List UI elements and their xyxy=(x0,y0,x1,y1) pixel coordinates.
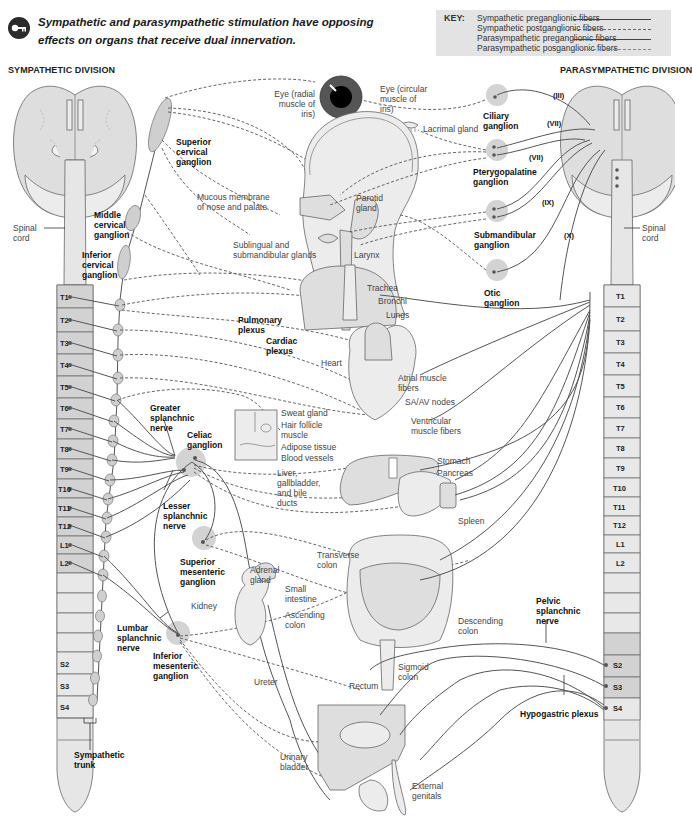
lesser-splanchnic-nerve-label: Lesser splanchnic nerve xyxy=(163,501,208,531)
trachea-label: Trachea xyxy=(367,283,398,293)
left-segment-T10: T10 xyxy=(58,485,71,494)
pelvic-splanchnic-nerve-label: Pelvic splanchnic nerve xyxy=(536,596,586,626)
lungs-label: Lungs xyxy=(386,310,409,320)
right-segment-S3: S3 xyxy=(613,683,622,692)
lumbar-splanchnic-nerve-label: Lumbar splanchnic nerve xyxy=(117,623,162,653)
ciliary-ganglion-label: Ciliary ganglion xyxy=(483,111,528,131)
right-spinal-cord-label: Spinal cord xyxy=(642,223,672,243)
rectum-label: Rectum xyxy=(349,681,378,691)
sweat-gland-label: Sweat gland xyxy=(281,408,328,418)
right-segment-T9: T9 xyxy=(616,464,625,473)
legend-key: KEY: Sympathetic preganglionic fibers Sy… xyxy=(436,10,671,56)
larynx-label: Larynx xyxy=(354,250,380,260)
cranial-nerve-X-label: (X) xyxy=(564,231,574,241)
cranial-nerve-III-label: (III) xyxy=(553,91,564,101)
key-icon xyxy=(8,17,30,39)
left-segment-T12: T12 xyxy=(58,522,71,531)
right-segment-T6: T6 xyxy=(616,403,625,412)
eye-circular-label: Eye (circular muscle of iris) xyxy=(380,84,430,114)
eye-radial-label: Eye (radial muscle of iris) xyxy=(265,89,315,119)
key-statement: Sympathetic and parasympathetic stimulat… xyxy=(38,13,374,49)
transverse-colon-label: Transverse colon xyxy=(317,550,357,570)
heart-label: Heart xyxy=(321,358,342,368)
celiac-ganglion-label: Celiac ganglion xyxy=(187,430,231,450)
ventricular-fibers-label: Ventricular muscle fibers xyxy=(411,416,473,436)
external-genitals-label: External genitals xyxy=(412,781,452,801)
right-segment-T7: T7 xyxy=(616,424,625,433)
parasympathetic-division-title: PARASYMPATHETIC DIVISION xyxy=(560,65,692,75)
cardiac-plexus-label: Cardiac plexus xyxy=(266,336,306,356)
ascending-colon-label: Ascending colon xyxy=(285,610,330,630)
sigmoid-colon-label: Sigmoid colon xyxy=(398,662,433,682)
adrenal-gland-label: Adrenal gland xyxy=(250,565,280,585)
spleen-label: Spleen xyxy=(458,516,484,526)
skin xyxy=(235,410,277,460)
sublingual-glands-label: Sublingual and submandibular glands xyxy=(233,240,318,260)
legend-item-para-post: Parasympathetic posganglionic fibers xyxy=(477,43,618,53)
left-segment-T11: T11 xyxy=(58,504,71,513)
key-statement-line1: Sympathetic and parasympathetic stimulat… xyxy=(38,13,374,31)
legend-line-solid xyxy=(573,39,651,40)
superior-cervical-ganglion-label: Superior cervical ganglion xyxy=(176,137,226,167)
bronchi-label: Bronchi xyxy=(378,296,407,306)
right-segment-L1: L1 xyxy=(616,540,625,549)
legend-item-para-pre: Parasympathetic preganglionic fibers xyxy=(477,33,616,43)
right-segment-T11: T11 xyxy=(613,503,626,512)
sa-av-nodes-label: SA/AV nodes xyxy=(405,397,455,407)
right-segment-T2: T2 xyxy=(616,315,625,324)
left-segment-T3: T3 xyxy=(60,339,69,348)
legend-title: KEY: xyxy=(444,13,465,23)
right-segment-T1: T1 xyxy=(616,292,625,301)
otic-ganglion-label: Otic ganglion xyxy=(484,288,529,308)
pulmonary-plexus-label: Pulmonary plexus xyxy=(238,315,286,335)
sympathetic-division-title: SYMPATHETIC DIVISION xyxy=(8,65,115,75)
key-concept-banner: Sympathetic and parasympathetic stimulat… xyxy=(8,13,428,53)
left-segment-L1: L1 xyxy=(60,541,69,550)
left-segment-T9: T9 xyxy=(60,465,69,474)
cranial-nerve-VII-label-2: (VII) xyxy=(529,153,543,163)
pterygopalatine-ganglion-label: Pterygopalatine ganglion xyxy=(473,167,543,187)
atrial-fibers-label: Atrial muscle fibers xyxy=(398,373,458,393)
left-segment-S4: S4 xyxy=(60,703,69,712)
legend-item-symp-pre: Sympathetic preganglionic fibers xyxy=(477,13,600,23)
left-segment-T7: T7 xyxy=(60,425,69,434)
blood-vessels-label: Blood vessels xyxy=(281,453,333,463)
left-segment-T5: T5 xyxy=(60,383,69,392)
left-segment-S3: S3 xyxy=(60,682,69,691)
adipose-tissue-label: Adipose tissue xyxy=(281,442,336,452)
hair-follicle-label: Hair follicle muscle xyxy=(281,420,326,440)
ureter-label: Ureter xyxy=(254,677,278,687)
inferior-mesenteric-ganglion-label: Inferior mesenteric ganglion xyxy=(153,651,203,681)
legend-line-dashed xyxy=(573,49,651,50)
right-segment-L2: L2 xyxy=(616,559,625,568)
eye xyxy=(320,76,362,118)
urinary-bladder-label: Urinary bladder xyxy=(280,752,320,772)
kidney-label: Kidney xyxy=(191,601,217,611)
left-segment-T6: T6 xyxy=(60,404,69,413)
hypogastric-plexus-label: Hypogastric plexus xyxy=(520,709,598,719)
right-segment-T3: T3 xyxy=(616,338,625,347)
legend-item-symp-post: Sympathetic postganglionic fibers xyxy=(477,23,604,33)
superior-mesenteric-ganglion-label: Superior mesenteric ganglion xyxy=(180,557,228,587)
right-segment-T5: T5 xyxy=(616,382,625,391)
pelvis xyxy=(318,705,406,815)
descending-colon-label: Descending colon xyxy=(458,616,508,636)
cranial-nerve-VII-label-1: (VII) xyxy=(547,119,561,129)
middle-cervical-ganglion-label: Middle cervical ganglion xyxy=(94,210,134,240)
stomach-label: Stomach xyxy=(437,456,471,466)
legend-line-solid xyxy=(573,19,651,20)
left-segment-T2: T2 xyxy=(60,316,69,325)
left-segment-L2: L2 xyxy=(60,559,69,568)
key-statement-line2: effects on organs that receive dual inne… xyxy=(38,31,374,49)
legend-line-dashed xyxy=(573,29,651,30)
right-segment-T10: T10 xyxy=(613,484,626,493)
right-segment-S4: S4 xyxy=(613,704,622,713)
mucous-membrane-label: Mucous membrane of nose and palate xyxy=(197,192,277,212)
sympathetic-trunk-label: Sympathetic trunk xyxy=(74,750,124,770)
right-segment-T12: T12 xyxy=(613,521,626,530)
parotid-gland-label: Parotid gland xyxy=(356,193,390,213)
left-spinal-cord-label: Spinal cord xyxy=(13,223,43,243)
lacrimal-gland-label: Lacrimal gland xyxy=(423,124,478,134)
right-segment-T4: T4 xyxy=(616,360,625,369)
